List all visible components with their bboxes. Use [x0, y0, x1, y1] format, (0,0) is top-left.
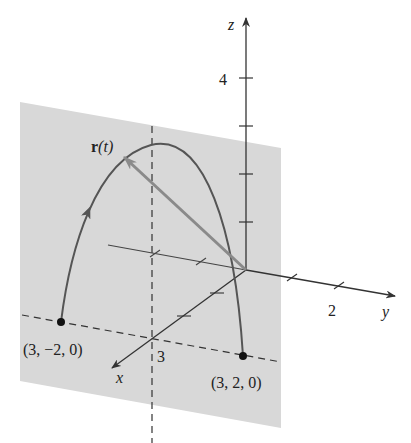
vector-label-bold: r [91, 138, 98, 155]
x-axis-label: x [115, 369, 123, 386]
z-tick-label-4: 4 [219, 71, 227, 88]
point-label-3-2-0: (3, 2, 0) [211, 374, 262, 392]
point-3-2-0 [239, 352, 247, 360]
y-tick-label-2: 2 [328, 302, 336, 319]
point-3-neg2-0 [57, 318, 65, 326]
x-tick-label-3: 3 [157, 348, 165, 365]
point-label-3-neg2-0: (3, −2, 0) [23, 341, 83, 359]
vector-label-arg: (t) [98, 138, 113, 156]
y-axis-label: y [380, 303, 390, 321]
vector-function-diagram: z 4 y 2 x 3 r(t) (3, −2, 0) (3, 2, 0) [0, 0, 411, 443]
z-axis-label: z [227, 16, 235, 33]
vector-label: r(t) [91, 138, 113, 156]
